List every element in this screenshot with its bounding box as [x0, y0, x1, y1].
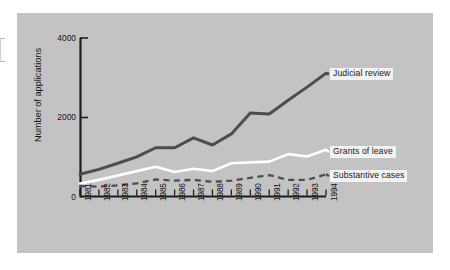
series-label-grants-of-leave: Grants of leave: [330, 146, 396, 158]
series-grants-of-leave: [80, 150, 326, 184]
x-tick-label-1981: 1981: [84, 183, 93, 201]
x-tick-label-1994: 1994: [330, 183, 339, 201]
x-tick-label-1985: 1985: [159, 183, 168, 201]
axis-lines: [80, 38, 326, 198]
x-tick-label-1991: 1991: [273, 183, 282, 201]
x-tick-label-1988: 1988: [216, 183, 225, 201]
x-tick-label-1992: 1992: [292, 183, 301, 201]
y-tick-label-4000: 4000: [42, 33, 76, 43]
x-tick-label-1984: 1984: [140, 183, 149, 201]
series-label-substantive-cases: Substantive cases: [330, 170, 407, 182]
x-tick-label-1989: 1989: [235, 183, 244, 201]
y-tick-label-2000: 2000: [42, 112, 76, 122]
x-tick-label-1982: 1982: [103, 183, 112, 201]
x-tick-label-1990: 1990: [254, 183, 263, 201]
series-judicial-review: [80, 73, 326, 174]
series-label-judicial-review: Judicial review: [330, 68, 393, 80]
x-tick-label-1983: 1983: [121, 183, 130, 201]
y-tick-label-0: 0: [42, 192, 76, 202]
x-tick-label-1987: 1987: [197, 183, 206, 201]
label-leaders: [326, 73, 329, 176]
x-tick-label-1986: 1986: [178, 183, 187, 201]
x-tick-label-1993: 1993: [311, 183, 320, 201]
y-axis-title: Number of applications: [33, 35, 43, 155]
figure-container: Number of applications 4000 2000 0 19811…: [0, 0, 450, 270]
